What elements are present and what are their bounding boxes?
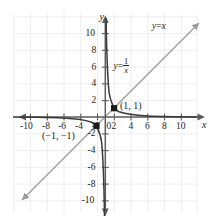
reciprocal-label-fraction: 1x	[123, 57, 129, 76]
y-tick-label--10: -10	[82, 196, 95, 206]
axis-lines	[23, 20, 202, 212]
marker-point-1-1	[111, 105, 117, 111]
y-tick-label--8: -8	[88, 180, 96, 190]
x-tick-label-4: 4	[128, 122, 133, 132]
point-label-1-1: (1, 1)	[120, 101, 142, 111]
reciprocal-label-numerator: 1	[123, 57, 129, 66]
x-tick-label--4: -4	[75, 122, 83, 132]
x-tick-label-10: 10	[176, 122, 186, 132]
x-tick-label-0: 0	[107, 122, 112, 132]
y-tick-label-8: 8	[92, 46, 97, 56]
y-tick-label--2: -2	[88, 129, 96, 139]
reciprocal-curve-label: y=1x	[114, 57, 130, 76]
y-tick-label-10: 10	[86, 29, 96, 39]
y-tick-label-2: 2	[92, 96, 97, 106]
y-tick-label--6: -6	[88, 163, 96, 173]
x-axis-name: x	[202, 120, 206, 130]
graph-canvas	[0, 0, 214, 224]
y-tick-label--4: -4	[88, 146, 96, 156]
y-axis-arrow-down	[102, 209, 109, 217]
math-graph-figure: -10 -8 -6 -4 -2 0 2 4 6 8 10 10 8 6 4 2 …	[0, 0, 214, 224]
y-tick-label-6: 6	[92, 63, 97, 73]
identity-label-x: x	[162, 21, 166, 31]
x-tick-label--10: -10	[20, 122, 33, 132]
x-tick-label-2: 2	[112, 122, 117, 132]
point-label-neg1-neg1: (−1, −1)	[42, 131, 75, 141]
x-tick-label-6: 6	[145, 122, 150, 132]
y-axis-name: y	[100, 12, 104, 22]
identity-line-label: y=x	[152, 22, 166, 32]
y-tick-label-4: 4	[92, 79, 97, 89]
identity-line	[22, 23, 199, 200]
x-tick-label-8: 8	[162, 122, 167, 132]
reciprocal-label-denominator: x	[123, 65, 129, 75]
